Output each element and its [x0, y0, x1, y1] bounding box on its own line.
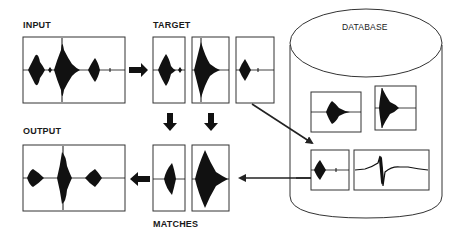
target-panel-3	[236, 37, 274, 103]
match-panel-2	[192, 145, 229, 211]
database-panel-3	[311, 150, 349, 190]
output-waveform-panel	[23, 145, 125, 211]
output-label: OUTPUT	[23, 126, 61, 136]
match-panel-1	[153, 145, 185, 211]
database-label: DATABASE	[342, 22, 388, 32]
matches-label: MATCHES	[153, 219, 198, 229]
target-label: TARGET	[153, 20, 191, 30]
database-panel-4	[354, 150, 429, 190]
arrow-match-to-output	[130, 172, 150, 186]
input-label: INPUT	[23, 20, 51, 30]
database-panel-1	[311, 92, 361, 132]
arrow-target-to-match-1	[163, 113, 177, 131]
arrow-target-to-database	[252, 104, 312, 143]
arrow-input-to-target	[129, 63, 148, 77]
diagram-canvas	[0, 0, 462, 240]
target-panel-2	[192, 37, 229, 103]
database-panel-2	[375, 86, 416, 130]
target-panel-1	[153, 37, 185, 103]
arrow-target-to-match-2	[204, 113, 218, 131]
input-waveform-panel	[23, 37, 125, 103]
